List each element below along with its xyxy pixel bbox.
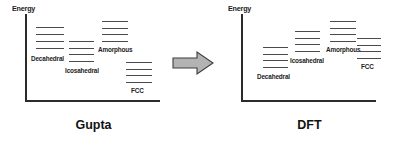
energy-level-line: [126, 75, 152, 76]
group-label-fcc-gupta: FCC: [131, 87, 144, 94]
panel-gupta: Energy Decahedral Icosahedral Amorphous: [6, 0, 186, 141]
group-label-amorphous-dft: Amorphous: [326, 46, 361, 53]
energy-level-line: [357, 45, 381, 46]
level-group-fcc-dft: [357, 38, 381, 58]
energy-level-line: [295, 51, 320, 52]
energy-level-line: [102, 28, 128, 29]
group-label-icosahedral-dft: Icosahedral: [290, 57, 324, 64]
energy-level-line: [357, 51, 381, 52]
y-axis-line-gupta: [25, 14, 27, 102]
level-group-fcc-gupta: [126, 62, 152, 82]
energy-level-line: [102, 34, 128, 35]
energy-level-line: [126, 82, 152, 83]
group-label-fcc-dft: FCC: [361, 63, 374, 70]
energy-level-line: [69, 54, 94, 55]
energy-level-line: [330, 41, 356, 42]
energy-level-line: [263, 67, 288, 68]
energy-level-line: [102, 41, 128, 42]
energy-level-line: [295, 44, 320, 45]
level-group-decahedral-dft: [263, 47, 288, 67]
panel-dft: Energy Decahedral Icosahedral Amorphous: [222, 0, 402, 141]
energy-level-line: [330, 28, 356, 29]
y-axis-line-dft: [241, 14, 243, 102]
panel-title-dft: DFT: [222, 118, 397, 132]
energy-level-line: [69, 61, 94, 62]
energy-level-line: [295, 31, 320, 32]
energy-level-line: [126, 69, 152, 70]
energy-level-line: [36, 34, 64, 35]
group-label-decahedral-gupta: Decahedral: [31, 55, 64, 62]
energy-level-line: [357, 58, 381, 59]
energy-level-comparison-figure: Energy Decahedral Icosahedral Amorphous: [0, 0, 407, 141]
x-axis-line-dft: [241, 100, 376, 102]
energy-level-line: [295, 38, 320, 39]
level-group-amorphous-gupta: [102, 21, 128, 41]
energy-level-line: [36, 48, 64, 49]
energy-level-line: [263, 54, 288, 55]
group-label-decahedral-dft: Decahedral: [257, 73, 290, 80]
group-label-icosahedral-gupta: Icosahedral: [65, 67, 99, 74]
energy-level-line: [263, 47, 288, 48]
y-axis-label-gupta: Energy: [12, 4, 35, 13]
energy-level-line: [102, 21, 128, 22]
level-group-decahedral-gupta: [36, 27, 64, 49]
level-group-amorphous-dft: [330, 21, 356, 41]
energy-level-line: [357, 38, 381, 39]
level-group-icosahedral-gupta: [69, 41, 94, 61]
panel-title-gupta: Gupta: [6, 118, 181, 132]
energy-level-line: [36, 27, 64, 28]
energy-level-line: [330, 21, 356, 22]
energy-level-line: [263, 60, 288, 61]
group-label-amorphous-gupta: Amorphous: [98, 46, 133, 53]
energy-level-line: [36, 41, 64, 42]
transition-arrow: [171, 50, 215, 76]
energy-level-line: [330, 34, 356, 35]
right-block-arrow-icon: [171, 50, 215, 76]
level-group-icosahedral-dft: [295, 31, 320, 51]
energy-level-line: [69, 41, 94, 42]
energy-level-line: [69, 48, 94, 49]
x-axis-line-gupta: [25, 100, 160, 102]
energy-level-line: [126, 62, 152, 63]
y-axis-label-dft: Energy: [228, 4, 251, 13]
